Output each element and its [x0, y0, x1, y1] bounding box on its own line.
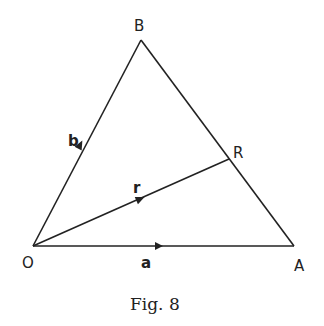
label-vector-a: a: [141, 254, 151, 272]
label-point-B: B: [134, 17, 144, 35]
figure-caption: Fig. 8: [130, 294, 180, 314]
arrow-a-icon: [155, 242, 163, 250]
segment-OR: [33, 159, 229, 246]
label-point-R: R: [233, 144, 243, 162]
side-BA: [141, 40, 294, 246]
label-vector-b: b: [68, 132, 79, 150]
vector-triangle-diagram: B R O A b r a Fig. 8: [0, 0, 324, 326]
label-point-A: A: [294, 257, 305, 275]
label-vector-r: r: [133, 179, 141, 197]
label-point-O: O: [22, 254, 34, 272]
side-OB: [33, 40, 141, 246]
